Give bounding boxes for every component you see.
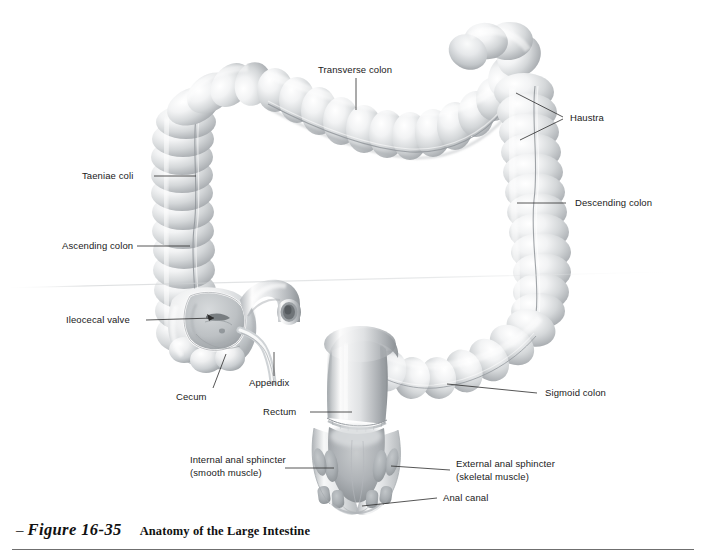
descending-colon-segment — [494, 73, 571, 329]
figure-number: Figure 16-35 — [28, 520, 122, 540]
label-external-anal-sphincter-line1: External anal sphincter — [456, 458, 555, 469]
label-taeniae-coli: Taeniae coli — [82, 170, 133, 181]
anal-canal-cutaway — [311, 425, 401, 515]
label-ascending-colon: Ascending colon — [62, 240, 133, 251]
label-appendix: Appendix — [249, 377, 290, 388]
scan-crease-artifact — [0, 271, 706, 288]
label-cecum: Cecum — [176, 391, 207, 402]
large-intestine-illustration: Transverse colon Haustra Taeniae coli As… — [0, 0, 706, 556]
figure-page: Transverse colon Haustra Taeniae coli As… — [0, 0, 706, 556]
figure-title: Anatomy of the Large Intestine — [140, 524, 310, 539]
figure-caption: – Figure 16-35 Anatomy of the Large Inte… — [0, 520, 706, 556]
label-transverse-colon: Transverse colon — [318, 64, 392, 75]
label-internal-anal-sphincter-line1: Internal anal sphincter — [190, 454, 286, 465]
label-external-anal-sphincter-line2: (skeletal muscle) — [456, 471, 529, 482]
label-descending-colon: Descending colon — [575, 197, 652, 208]
label-sigmoid-colon: Sigmoid colon — [545, 387, 606, 398]
transverse-colon-segment — [257, 68, 512, 160]
caption-divider — [12, 549, 694, 550]
label-anal-canal: Anal canal — [443, 492, 488, 503]
label-rectum: Rectum — [263, 406, 296, 417]
label-haustra: Haustra — [570, 112, 605, 123]
rectum-segment — [324, 326, 398, 432]
label-internal-anal-sphincter-line2: (smooth muscle) — [190, 467, 262, 478]
large-intestine-body — [151, 19, 571, 514]
label-ileocecal-valve: Ileocecal valve — [66, 314, 130, 325]
caption-dash: – — [16, 522, 24, 539]
